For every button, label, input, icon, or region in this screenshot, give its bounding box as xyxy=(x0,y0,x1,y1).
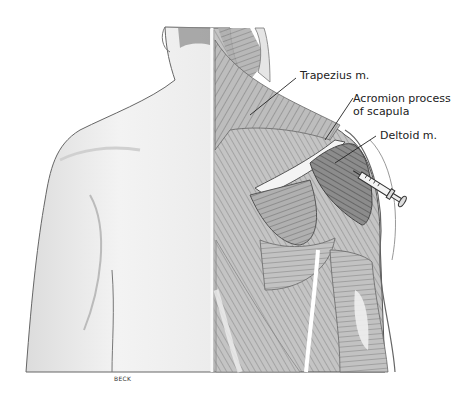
skin-back xyxy=(26,27,212,372)
label-acromion-line1: Acromion process xyxy=(353,92,451,105)
label-trapezius: Trapezius m. xyxy=(300,69,369,82)
label-acromion-line2: of scapula xyxy=(353,105,409,118)
label-deltoid: Deltoid m. xyxy=(380,129,437,142)
anatomy-illustration: Trapezius m. Acromion process of scapula… xyxy=(0,0,466,404)
artist-credit: BECK xyxy=(114,375,131,382)
shoulder-drawing xyxy=(0,0,466,404)
